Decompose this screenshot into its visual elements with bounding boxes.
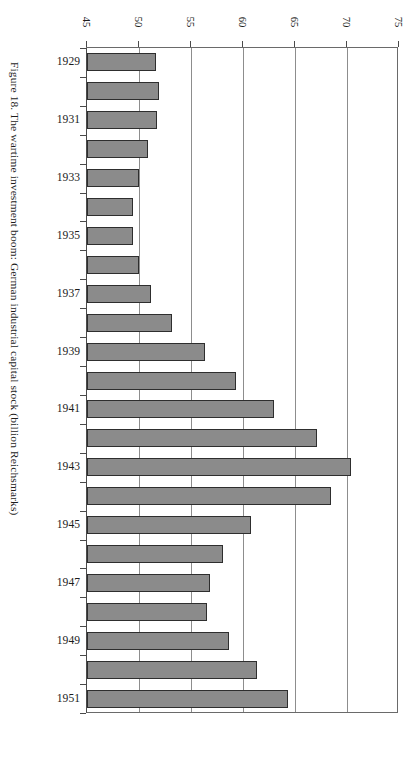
- bar-row: [87, 82, 399, 100]
- bar-row: [87, 603, 399, 621]
- bar-row: [87, 487, 399, 505]
- y-axis-label-1939: 1939: [36, 345, 80, 359]
- x-tick-label-50: 50: [130, 9, 146, 35]
- bar-1943: [87, 458, 351, 476]
- y-tick-1945: [80, 511, 86, 512]
- y-tick-1935: [80, 221, 86, 222]
- y-axis-label-1941: 1941: [36, 402, 80, 416]
- bar-1939: [87, 343, 205, 361]
- x-tick-45: [86, 41, 87, 47]
- bar-1948: [87, 603, 207, 621]
- bar-1951: [87, 690, 288, 708]
- y-axis-label-1935: 1935: [36, 229, 80, 243]
- y-tick-1930: [80, 77, 86, 78]
- bar-row: [87, 545, 399, 563]
- y-tick-1949: [80, 626, 86, 627]
- x-tick-55: [190, 41, 191, 47]
- figure-root: Figure 18. The wartime investment boom: …: [0, 0, 419, 767]
- x-tick-70: [346, 41, 347, 47]
- bar-row: [87, 516, 399, 534]
- bar-row: [87, 661, 399, 679]
- x-tick-label-75: 75: [390, 9, 406, 35]
- bar-1938: [87, 314, 172, 332]
- bar-1941: [87, 400, 274, 418]
- y-axis-label-1933: 1933: [36, 171, 80, 185]
- bar-1947: [87, 574, 210, 592]
- y-tick-1939: [80, 337, 86, 338]
- y-label-wrap: 1947: [30, 576, 80, 590]
- y-label-wrap: 1933: [30, 171, 80, 185]
- bar-row: [87, 632, 399, 650]
- x-tick-label-60: 60: [234, 9, 250, 35]
- x-tick-60: [242, 41, 243, 47]
- y-tick-1933: [80, 164, 86, 165]
- bar-row: [87, 400, 399, 418]
- bar-row: [87, 256, 399, 274]
- y-axis-label-1947: 1947: [36, 576, 80, 590]
- y-axis-label-1945: 1945: [36, 518, 80, 532]
- y-tick-1941: [80, 395, 86, 396]
- y-label-wrap: 1931: [30, 113, 80, 127]
- bar-row: [87, 111, 399, 129]
- bar-1933: [87, 169, 139, 187]
- x-tick-65: [294, 41, 295, 47]
- y-label-wrap: 1949: [30, 634, 80, 648]
- x-tick-label-45: 45: [78, 9, 94, 35]
- bar-1934: [87, 198, 133, 216]
- bar-row: [87, 343, 399, 361]
- bar-1950: [87, 661, 257, 679]
- bar-row: [87, 458, 399, 476]
- figure-caption-text: Figure 18. The wartime investment boom: …: [9, 0, 21, 515]
- y-tick-1937: [80, 279, 86, 280]
- y-tick-1931: [80, 106, 86, 107]
- y-tick-1944: [80, 482, 86, 483]
- y-axis-label-1951: 1951: [36, 692, 80, 706]
- y-label-wrap: 1943: [30, 460, 80, 474]
- y-axis-label-1931: 1931: [36, 113, 80, 127]
- x-tick-label-70: 70: [338, 9, 354, 35]
- bar-row: [87, 429, 399, 447]
- y-label-wrap: 1951: [30, 692, 80, 706]
- y-label-wrap: 1945: [30, 518, 80, 532]
- bar-row: [87, 198, 399, 216]
- bar-1942: [87, 429, 317, 447]
- figure-caption: Figure 18. The wartime investment boom: …: [0, 0, 30, 767]
- bar-1930: [87, 82, 159, 100]
- y-tick-1948: [80, 597, 86, 598]
- y-tick-1947: [80, 568, 86, 569]
- x-tick-label-55: 55: [182, 9, 198, 35]
- bar-1944: [87, 487, 331, 505]
- bar-1931: [87, 111, 157, 129]
- y-label-wrap: 1935: [30, 229, 80, 243]
- bar-row: [87, 574, 399, 592]
- bar-1949: [87, 632, 229, 650]
- bar-row: [87, 169, 399, 187]
- y-tick-1942: [80, 424, 86, 425]
- y-tick-1946: [80, 540, 86, 541]
- y-tick-1938: [80, 308, 86, 309]
- y-tick-1932: [80, 135, 86, 136]
- bar-row: [87, 140, 399, 158]
- bar-row: [87, 372, 399, 390]
- bar-row: [87, 690, 399, 708]
- bar-row: [87, 314, 399, 332]
- plot-area: [86, 48, 398, 713]
- y-axis-label-1949: 1949: [36, 634, 80, 648]
- bar-1935: [87, 227, 133, 245]
- y-label-wrap: 1929: [30, 55, 80, 69]
- y-tick-1950: [80, 655, 86, 656]
- y-tick-1936: [80, 250, 86, 251]
- y-label-wrap: 1937: [30, 287, 80, 301]
- bar-row: [87, 53, 399, 71]
- bar-1932: [87, 140, 148, 158]
- bar-1936: [87, 256, 139, 274]
- y-tick-1934: [80, 193, 86, 194]
- bar-row: [87, 227, 399, 245]
- bar-1945: [87, 516, 251, 534]
- y-tick-end: [80, 713, 86, 714]
- bar-row: [87, 285, 399, 303]
- y-axis-label-1937: 1937: [36, 287, 80, 301]
- y-tick-1943: [80, 453, 86, 454]
- y-tick-1940: [80, 366, 86, 367]
- x-tick-label-65: 65: [286, 9, 302, 35]
